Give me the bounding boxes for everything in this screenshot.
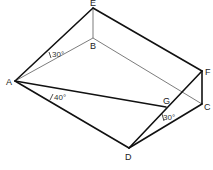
vertex-label-G: G [163, 96, 170, 106]
angle-label-GAD: 40° [54, 93, 66, 102]
vertex-label-D: D [125, 152, 132, 162]
edge-DF [129, 71, 202, 148]
vertex-label-C: C [204, 102, 211, 112]
vertex-label-E: E [90, 0, 96, 8]
wedge-diagram: 30° 40° 30° E B A F C G D [0, 0, 213, 170]
angle-mark-GAD [50, 94, 53, 100]
edge-EF [93, 8, 202, 71]
vertex-label-B: B [90, 41, 96, 51]
edge-BC [93, 38, 202, 104]
angle-label-GDC: 30° [163, 113, 175, 122]
vertex-label-A: A [6, 77, 12, 87]
angle-mark-EAB [49, 52, 51, 58]
vertex-label-F: F [205, 67, 211, 77]
angle-label-EAB: 30° [52, 50, 64, 59]
